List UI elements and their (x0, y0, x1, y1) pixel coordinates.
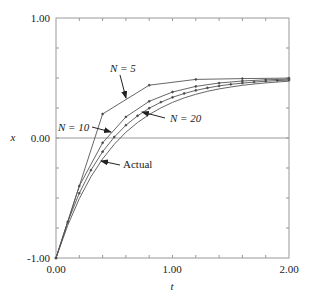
annotation-n10-arrow (92, 127, 111, 132)
x-tick-right: 2.00 (279, 263, 299, 275)
data-point (148, 84, 150, 86)
y-axis-label: x (10, 131, 16, 143)
annotation-n5-arrow (120, 75, 126, 98)
data-point (125, 116, 127, 118)
data-point (78, 192, 80, 194)
data-point (253, 81, 255, 83)
data-point (195, 89, 197, 91)
data-point (125, 124, 127, 126)
data-point (137, 115, 139, 117)
data-point (207, 87, 209, 89)
annotation-actual-arrow (101, 161, 120, 165)
x-tick-left: 0.00 (46, 263, 66, 275)
data-point (102, 142, 104, 144)
data-point (78, 185, 80, 187)
annotation-n5: N = 5 (109, 62, 136, 74)
series-n-5 (56, 78, 289, 258)
annotation-actual: Actual (123, 158, 152, 170)
data-point (230, 83, 232, 85)
data-point (242, 80, 244, 82)
y-tick-mid: 0.00 (31, 132, 51, 144)
data-point (67, 221, 69, 223)
y-tick-top: 1.00 (31, 12, 51, 24)
data-point (195, 86, 197, 88)
chart: 1.00 0.00 -1.00 0.00 1.00 2.00 t x N = 5… (0, 0, 312, 303)
data-point (242, 78, 244, 80)
data-point (276, 80, 278, 82)
data-point (218, 85, 220, 87)
data-point (172, 91, 174, 93)
annotation-n20: N = 20 (169, 112, 202, 124)
x-tick-mid: 1.00 (162, 263, 182, 275)
series-group (55, 77, 290, 259)
data-point (113, 136, 115, 138)
x-axis-label: t (170, 280, 174, 292)
data-point (242, 82, 244, 84)
data-point (148, 100, 150, 102)
data-point (148, 107, 150, 109)
data-point (183, 93, 185, 95)
data-point (90, 169, 92, 171)
data-point (160, 101, 162, 103)
data-point (102, 113, 104, 115)
data-point (195, 79, 197, 81)
data-point (102, 151, 104, 153)
annotation-n10: N = 10 (57, 121, 90, 133)
series-n-10 (56, 79, 289, 258)
data-point (218, 82, 220, 84)
data-point (172, 96, 174, 98)
data-point (265, 80, 267, 82)
data-point (288, 79, 290, 81)
